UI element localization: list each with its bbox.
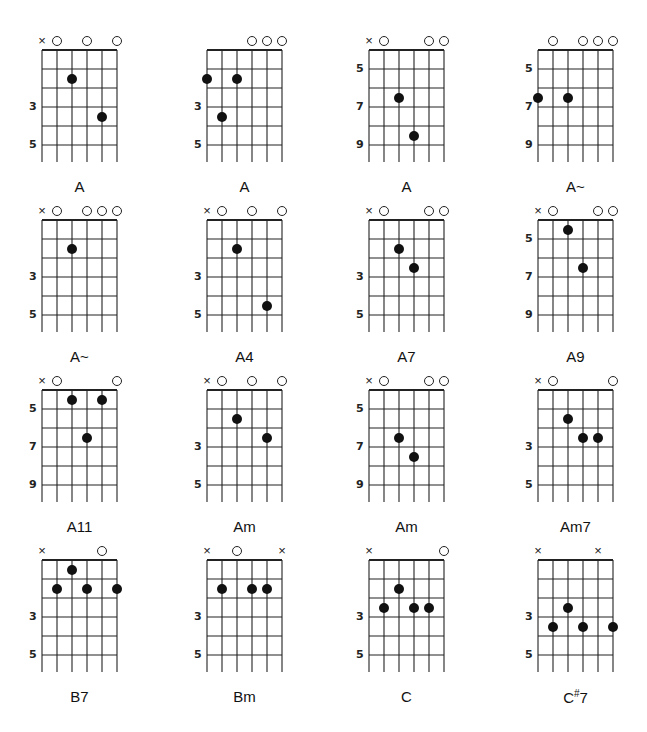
chord-quality: 7 bbox=[580, 689, 588, 706]
open-string-icon bbox=[593, 36, 603, 46]
fret-number: 9 bbox=[29, 478, 37, 491]
muted-string-icon: × bbox=[202, 545, 212, 557]
chord-name-label: A11 bbox=[40, 518, 120, 535]
finger-dot-icon bbox=[232, 244, 242, 254]
finger-dot-icon bbox=[578, 433, 588, 443]
fret-number: 5 bbox=[29, 308, 37, 321]
chord-name-label: A4 bbox=[205, 348, 285, 365]
open-string-icon bbox=[548, 206, 558, 216]
fret-number: 3 bbox=[194, 440, 202, 453]
chord-diagram: 35A bbox=[177, 28, 327, 198]
chord-diagram: ×579A9 bbox=[508, 198, 647, 368]
finger-dot-icon bbox=[202, 74, 212, 84]
fret-number: 9 bbox=[525, 138, 533, 151]
open-string-icon bbox=[112, 376, 122, 386]
open-string-icon bbox=[232, 546, 242, 556]
chord-name-label: C#7 bbox=[536, 688, 616, 706]
muted-string-icon: × bbox=[533, 545, 543, 557]
chord-diagram: ×35A7 bbox=[339, 198, 489, 368]
muted-string-icon: × bbox=[364, 205, 374, 217]
open-string-icon bbox=[424, 36, 434, 46]
open-string-icon bbox=[112, 206, 122, 216]
open-string-icon bbox=[379, 206, 389, 216]
open-string-icon bbox=[277, 206, 287, 216]
finger-dot-icon bbox=[409, 603, 419, 613]
open-string-icon bbox=[608, 206, 618, 216]
muted-string-icon: × bbox=[593, 545, 603, 557]
open-string-icon bbox=[608, 376, 618, 386]
fret-number: 9 bbox=[525, 308, 533, 321]
open-string-icon bbox=[548, 376, 558, 386]
chord-name-label: A9 bbox=[536, 348, 616, 365]
open-string-icon bbox=[262, 36, 272, 46]
fretboard-grid bbox=[536, 558, 615, 682]
chord-name-label: Am bbox=[367, 518, 447, 535]
open-string-icon bbox=[608, 36, 618, 46]
open-string-icon bbox=[247, 376, 257, 386]
finger-dot-icon bbox=[262, 433, 272, 443]
finger-dot-icon bbox=[247, 584, 257, 594]
fret-number: 5 bbox=[356, 402, 364, 415]
finger-dot-icon bbox=[82, 584, 92, 594]
chord-root: C bbox=[563, 689, 574, 706]
finger-dot-icon bbox=[578, 263, 588, 273]
finger-dot-icon bbox=[379, 603, 389, 613]
fret-number: 3 bbox=[356, 610, 364, 623]
fretboard-grid bbox=[40, 218, 119, 342]
muted-string-icon: × bbox=[533, 375, 543, 387]
open-string-icon bbox=[52, 206, 62, 216]
finger-dot-icon bbox=[409, 263, 419, 273]
finger-dot-icon bbox=[563, 414, 573, 424]
fret-number: 5 bbox=[29, 138, 37, 151]
fret-number: 3 bbox=[29, 270, 37, 283]
fret-number: 3 bbox=[356, 270, 364, 283]
finger-dot-icon bbox=[97, 395, 107, 405]
chord-name-label: A bbox=[367, 178, 447, 195]
open-string-icon bbox=[379, 36, 389, 46]
fretboard-grid bbox=[205, 48, 284, 172]
chord-diagram: ×579A11 bbox=[12, 368, 162, 538]
fret-number: 5 bbox=[525, 62, 533, 75]
finger-dot-icon bbox=[409, 131, 419, 141]
fretboard-grid bbox=[40, 48, 119, 172]
open-string-icon bbox=[97, 206, 107, 216]
fret-number: 3 bbox=[525, 610, 533, 623]
open-string-icon bbox=[379, 376, 389, 386]
fretboard-grid bbox=[367, 48, 446, 172]
fretboard-grid bbox=[367, 558, 446, 682]
fret-number: 7 bbox=[356, 440, 364, 453]
chord-diagram: ×35A~ bbox=[12, 198, 162, 368]
fret-number: 5 bbox=[194, 138, 202, 151]
chord-diagram: ×35B7 bbox=[12, 538, 162, 708]
fret-number: 5 bbox=[356, 308, 364, 321]
fret-number: 5 bbox=[356, 62, 364, 75]
finger-dot-icon bbox=[97, 112, 107, 122]
open-string-icon bbox=[424, 206, 434, 216]
fret-number: 3 bbox=[194, 610, 202, 623]
open-string-icon bbox=[97, 546, 107, 556]
open-string-icon bbox=[247, 206, 257, 216]
chord-name-label: A bbox=[40, 178, 120, 195]
open-string-icon bbox=[82, 36, 92, 46]
fret-number: 5 bbox=[194, 478, 202, 491]
open-string-icon bbox=[217, 206, 227, 216]
fret-number: 5 bbox=[525, 232, 533, 245]
muted-string-icon: × bbox=[277, 545, 287, 557]
fret-number: 7 bbox=[356, 100, 364, 113]
open-string-icon bbox=[112, 36, 122, 46]
open-string-icon bbox=[439, 36, 449, 46]
open-string-icon bbox=[593, 206, 603, 216]
finger-dot-icon bbox=[409, 452, 419, 462]
chord-name-label: A bbox=[205, 178, 285, 195]
finger-dot-icon bbox=[608, 622, 618, 632]
finger-dot-icon bbox=[112, 584, 122, 594]
open-string-icon bbox=[247, 36, 257, 46]
finger-dot-icon bbox=[548, 622, 558, 632]
finger-dot-icon bbox=[67, 395, 77, 405]
muted-string-icon: × bbox=[364, 545, 374, 557]
muted-string-icon: × bbox=[533, 205, 543, 217]
chord-diagram: ××35Bm bbox=[177, 538, 327, 708]
fretboard-grid bbox=[40, 388, 119, 512]
fretboard-grid bbox=[367, 388, 446, 512]
fret-number: 9 bbox=[356, 138, 364, 151]
